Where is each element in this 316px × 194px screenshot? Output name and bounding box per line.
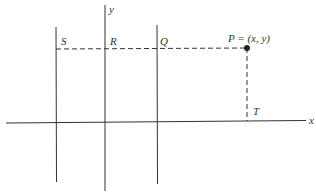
label-p: P = (x, y) xyxy=(227,32,270,45)
point-p xyxy=(244,45,250,51)
vertical-line-s xyxy=(56,27,57,182)
coordinate-diagram: x y S R Q P = (x, y) T xyxy=(0,0,316,194)
label-q: Q xyxy=(160,35,168,47)
dashed-horizontal-line xyxy=(56,48,247,49)
label-r: R xyxy=(109,35,117,47)
label-s: S xyxy=(61,35,67,47)
x-axis xyxy=(6,121,306,124)
y-axis-label: y xyxy=(108,3,114,15)
label-t: T xyxy=(253,105,260,117)
x-axis-label: x xyxy=(308,114,314,126)
vertical-line-q xyxy=(157,25,158,184)
